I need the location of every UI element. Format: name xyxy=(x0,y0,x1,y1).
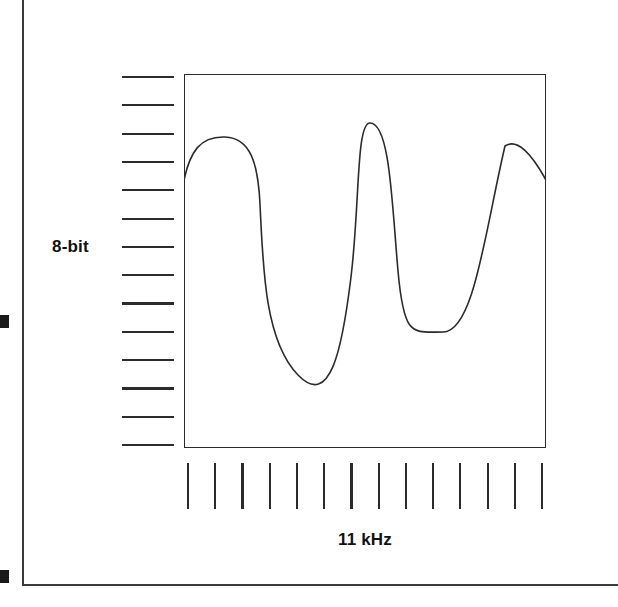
x-axis-tick xyxy=(405,463,407,509)
caption-line: t xyxy=(0,360,16,389)
caption-line: a xyxy=(0,417,16,446)
y-axis-ticks xyxy=(122,74,174,448)
x-axis-tick xyxy=(487,463,489,509)
x-axis-tick xyxy=(514,463,516,509)
x-axis-label: 11 kHz xyxy=(184,530,546,550)
x-axis-tick xyxy=(459,463,461,509)
y-axis-tick xyxy=(122,331,174,333)
y-axis-tick xyxy=(122,76,174,78)
y-axis-tick xyxy=(122,359,174,361)
y-axis-tick xyxy=(122,218,174,220)
y-axis-tick xyxy=(122,416,174,418)
y-axis-tick xyxy=(122,274,174,276)
x-axis-tick xyxy=(432,463,434,509)
y-axis-tick xyxy=(122,246,174,248)
x-axis-tick xyxy=(541,463,543,509)
x-axis-tick xyxy=(350,463,352,509)
caption-line: e xyxy=(0,445,16,474)
x-axis-tick xyxy=(323,463,325,509)
x-axis-ticks xyxy=(184,463,546,509)
caption-rule-horizontal xyxy=(22,584,618,586)
y-axis-tick xyxy=(122,444,174,446)
caption-line: e xyxy=(0,331,16,360)
x-axis-tick xyxy=(187,463,189,509)
caption-line: d xyxy=(0,388,16,417)
x-axis-tick xyxy=(269,463,271,509)
x-axis-tick xyxy=(378,463,380,509)
y-axis-tick xyxy=(122,189,174,191)
y-axis-label: 8-bit xyxy=(52,237,89,257)
y-axis-tick xyxy=(122,161,174,163)
figure-container: e t d a e y t . 8-bit 11 kHz xyxy=(0,0,618,607)
waveform-curve xyxy=(184,123,546,385)
caption-line: t xyxy=(0,502,16,531)
caption-bullet-top-icon xyxy=(0,315,9,328)
x-axis-tick xyxy=(214,463,216,509)
caption-bullet-bottom-icon xyxy=(0,570,9,583)
x-axis-tick xyxy=(296,463,298,509)
caption-rule-vertical xyxy=(22,0,24,586)
caption-margin-text: e t d a e y t . xyxy=(0,331,16,571)
y-axis-tick xyxy=(122,104,174,106)
caption-line: . xyxy=(0,531,16,560)
x-axis-tick xyxy=(241,463,243,509)
y-axis-tick xyxy=(122,302,174,304)
waveform-plot xyxy=(184,74,546,448)
caption-line: y xyxy=(0,474,16,503)
y-axis-tick xyxy=(122,133,174,135)
y-axis-tick xyxy=(122,387,174,389)
